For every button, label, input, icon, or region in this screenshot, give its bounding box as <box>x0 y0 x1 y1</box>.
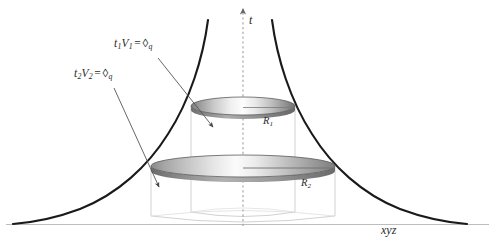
annotation-upper-v: V <box>122 37 129 49</box>
diagram-canvas <box>0 0 495 243</box>
upper-annotation-leader-arrow <box>158 58 213 127</box>
annotation-lower-rhs-sub: q <box>109 72 113 81</box>
annotation-lower-operator: = <box>93 67 103 79</box>
spacetime-diagram-figure: t1V1=◊q t2V2=◊q t xyz R1 R2 <box>0 0 495 243</box>
upper-disk-top-face <box>191 97 295 115</box>
annotation-lower-v: V <box>82 67 89 79</box>
annotation-lower-volume-equation: t2V2=◊q <box>74 67 113 81</box>
time-axis-label: t <box>249 13 252 28</box>
right-hyperbola-curve <box>272 20 467 224</box>
time-axis-label-text: t <box>249 13 252 27</box>
upper-radius-sub: 1 <box>269 120 273 128</box>
lower-radius-sub: 2 <box>307 182 311 190</box>
annotation-upper-rhs-sub: q <box>149 42 153 51</box>
lower-radius-label: R2 <box>301 177 311 190</box>
left-hyperbola-curve <box>13 20 208 224</box>
annotation-upper-operator: = <box>133 37 143 49</box>
upper-radius-label: R1 <box>263 115 273 128</box>
xyz-axis-label: xyz <box>381 223 396 238</box>
lower-disk-top-face <box>151 155 335 177</box>
upper-disk-R1 <box>191 97 295 119</box>
xyz-axis-label-text: xyz <box>381 223 396 237</box>
annotation-upper-volume-equation: t1V1=◊q <box>114 37 153 51</box>
